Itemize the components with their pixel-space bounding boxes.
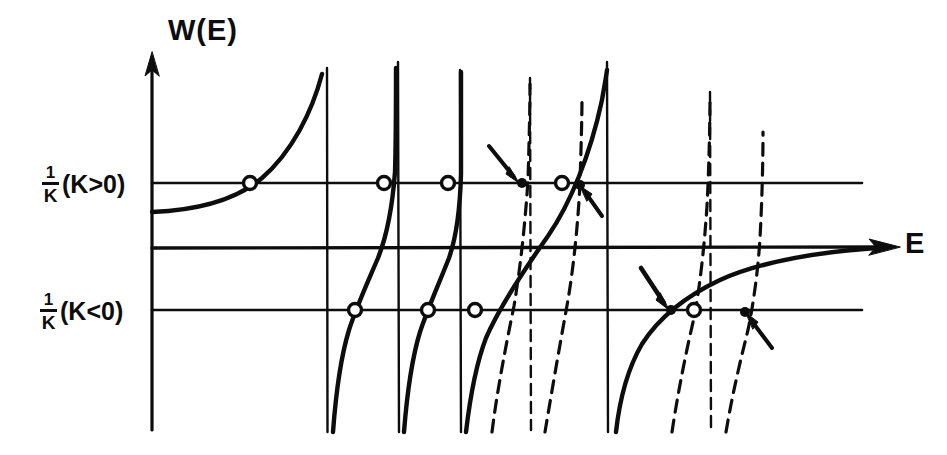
arrow-icon <box>580 186 602 216</box>
arrow-icon <box>641 268 669 310</box>
intersection-circle <box>422 304 435 317</box>
plot-svg <box>0 0 947 455</box>
fraction-denominator: K <box>42 312 56 332</box>
intersection-circle <box>688 304 701 317</box>
arrow-icon <box>746 313 772 348</box>
intersection-circle <box>442 177 455 190</box>
level-condition-text: (K>0) <box>62 170 125 199</box>
branch-curves-solid <box>152 68 876 432</box>
level-condition-text: (K<0) <box>60 297 123 326</box>
level-label-k-positive: 1 K (K>0) <box>42 164 125 205</box>
level-label-k-negative: 1 K (K<0) <box>40 291 123 332</box>
fraction-one-over-k: 1 K <box>42 164 59 205</box>
y-axis-label: W(E) <box>168 14 238 47</box>
y-axis <box>145 52 159 430</box>
intersection-circle <box>378 177 391 190</box>
x-axis <box>152 239 900 255</box>
fraction-numerator: 1 <box>44 291 53 309</box>
asymptote-dashed-group <box>530 78 711 430</box>
arrow-icon <box>489 146 519 183</box>
fraction-numerator: 1 <box>46 164 55 182</box>
intersection-circle <box>244 177 257 190</box>
figure-canvas: W(E) E 1 K (K>0) 1 K (K<0) <box>0 0 947 455</box>
intersection-circle <box>556 177 569 190</box>
fraction-one-over-k: 1 K <box>40 291 57 332</box>
intersection-circle <box>349 304 362 317</box>
fraction-denominator: K <box>44 185 58 205</box>
intersection-circle <box>469 304 482 317</box>
x-axis-label: E <box>905 227 925 260</box>
